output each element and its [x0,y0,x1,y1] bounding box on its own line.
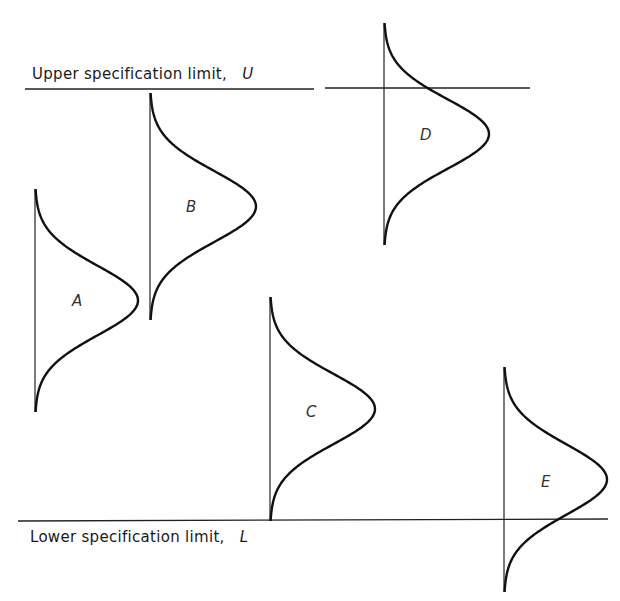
upper-spec-limit-text: Upper specification limit, [32,65,227,83]
curve-label-e: E [541,473,550,491]
curve-label-c: C [306,403,316,421]
curve-label-b: B [186,198,196,216]
curve-label-d: D [420,126,432,144]
lower-spec-limit-symbol: L [240,528,249,546]
distribution-curve-a [36,189,138,412]
curve-label-a: A [72,292,82,310]
upper-spec-limit-symbol: U [242,65,253,83]
distribution-curve-b [151,93,256,320]
lower-spec-limit-line [18,519,608,521]
process-capability-diagram [0,0,620,601]
distribution-curves [35,23,607,592]
distribution-curve-d [385,23,489,245]
lower-spec-limit-label: Lower specification limit, L [30,528,248,546]
distribution-curve-e [505,367,607,592]
distribution-curve-c [271,297,375,521]
upper-spec-limit-label: Upper specification limit, U [32,65,253,83]
lower-spec-limit-text: Lower specification limit, [30,528,225,546]
